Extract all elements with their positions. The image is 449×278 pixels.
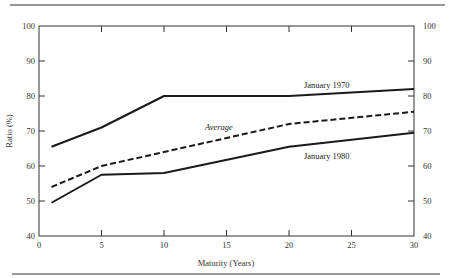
- y-tick-label: 40: [27, 231, 36, 241]
- right-y-tick-label: 40: [423, 231, 432, 241]
- x-tick-label: 30: [410, 240, 419, 250]
- x-tick-label: 10: [160, 240, 169, 250]
- y-tick-label: 70: [27, 126, 36, 136]
- series-line-january-1980: [52, 133, 415, 203]
- series-label-january-1970: January 1970: [304, 80, 350, 90]
- y-tick-label: 60: [27, 161, 36, 171]
- x-tick-label: 0: [37, 240, 41, 250]
- x-tick-label: 15: [222, 240, 231, 250]
- right-y-tick-label: 90: [423, 56, 432, 66]
- right-y-tick-label: 80: [423, 91, 432, 101]
- line-chart: 0510152025304050607080901004050607080901…: [0, 0, 449, 278]
- right-y-tick-label: 60: [423, 161, 432, 171]
- y-tick-label: 80: [27, 91, 36, 101]
- right-y-tick-label: 70: [423, 126, 432, 136]
- y-tick-label: 90: [27, 56, 36, 66]
- x-axis-title: Maturity (Years): [198, 258, 255, 268]
- x-tick-label: 20: [285, 240, 294, 250]
- axis-tick-labels: 0510152025304050607080901004050607080901…: [22, 21, 436, 250]
- y-tick-label: 100: [22, 21, 35, 31]
- y-tick-label: 50: [27, 196, 36, 206]
- x-tick-label: 25: [347, 240, 356, 250]
- x-tick-label: 5: [99, 240, 103, 250]
- series-lines: [52, 89, 415, 203]
- right-y-tick-label: 100: [423, 21, 436, 31]
- series-label-average: Average: [204, 122, 233, 132]
- y-axis-title: Ratio (%): [4, 114, 14, 147]
- series-label-january-1980: January 1980: [304, 151, 350, 161]
- right-y-tick-label: 50: [423, 196, 432, 206]
